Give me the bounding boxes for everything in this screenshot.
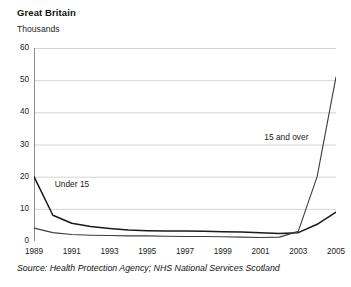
x-axis-tick-label: 1997 <box>168 247 202 256</box>
y-axis-tick-label: 50 <box>9 75 29 84</box>
units-label: Thousands <box>17 24 60 34</box>
x-axis-tick-label: 1999 <box>206 247 240 256</box>
chart-container: Great Britain Thousands 6050403020100 19… <box>0 0 351 287</box>
y-axis-tick-label: 20 <box>9 172 29 181</box>
x-axis-tick-label: 1995 <box>130 247 164 256</box>
y-axis-tick-label: 10 <box>9 204 29 213</box>
x-axis-tick-label: 1991 <box>55 247 89 256</box>
x-axis-tick-label: 2001 <box>244 247 278 256</box>
y-axis-tick-label: 0 <box>9 236 29 245</box>
series-label: 15 and over <box>264 132 308 142</box>
line-chart-svg <box>34 48 336 241</box>
x-axis-tick-label: 1993 <box>93 247 127 256</box>
series-label: Under 15 <box>55 179 89 189</box>
source-note: Source: Health Protection Agency; NHS Na… <box>17 263 280 273</box>
gridlines <box>34 49 336 242</box>
y-axis-tick-label: 30 <box>9 140 29 149</box>
y-axis-tick-label: 60 <box>9 43 29 52</box>
series-lines <box>34 77 336 238</box>
series-line <box>34 77 336 238</box>
x-axis-tick-label: 2003 <box>281 247 315 256</box>
x-axis-tick-label: 1989 <box>17 247 51 256</box>
page-title: Great Britain <box>17 7 76 18</box>
axis-lines <box>34 48 35 241</box>
y-axis-tick-label: 40 <box>9 107 29 116</box>
x-axis-tick-label: 2005 <box>319 247 351 256</box>
plot-area <box>34 48 336 241</box>
